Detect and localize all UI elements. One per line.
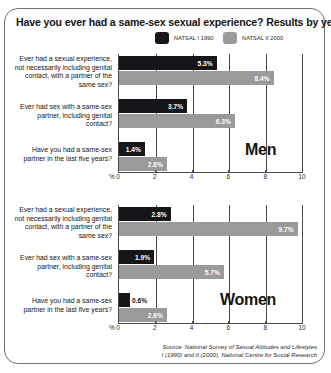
bar-women-2-natsal2: 5.7% [119, 265, 224, 279]
legend-swatch-icon-natsal2 [223, 32, 237, 44]
tick-women-10: 10 [298, 324, 305, 331]
question-label-men-2: Ever had sex with a same-sex partner, in… [12, 103, 112, 129]
question-label-men-1: Ever had a sexual experience, not necess… [12, 55, 112, 89]
bar-men-1-natsal1: 5.3% [119, 56, 217, 70]
tick-men-6: 6 [227, 173, 231, 180]
x-axis-percent-women: % [109, 324, 115, 331]
question-label-women-2: Ever had sex with a same-sex partner, in… [12, 254, 112, 280]
panel-men: Ever had a sexual experience, not necess… [5, 49, 326, 199]
tick-mark-women-4 [192, 321, 193, 324]
source-line-2: I (1990) and II (2000), National Centre … [5, 351, 317, 359]
tick-mark-men-6 [228, 170, 229, 173]
bar-value-women-2-natsal2: 5.7% [205, 269, 224, 276]
legend-label-natsal2: NATSAL II 2000 [242, 35, 283, 41]
bar-value-women-3-natsal2: 2.6% [148, 312, 167, 319]
tick-men-10: 10 [298, 173, 305, 180]
source-line-1: Source: National Survey of Sexual Attitu… [162, 344, 317, 350]
tick-mark-men-10 [302, 170, 303, 173]
bar-value-men-2-natsal1: 3.7% [168, 103, 187, 110]
bar-value-women-1-natsal2: 9.7% [278, 226, 297, 233]
bar-pair-men-1: 5.3% 8.4% [119, 56, 303, 85]
x-axis-ticks-women: 0 2 4 6 8 10 [118, 324, 303, 336]
tick-mark-men-0 [118, 170, 119, 173]
chart-legend: NATSAL I 1990 NATSAL II 2000 [5, 32, 326, 48]
bar-value-men-1-natsal1: 5.3% [197, 60, 216, 67]
bar-value-men-2-natsal2: 6.3% [216, 118, 235, 125]
bar-women-1-natsal2: 9.7% [119, 222, 298, 236]
bar-value-men-3-natsal2: 2.6% [148, 161, 167, 168]
bar-value-men-3-natsal1: 1.4% [126, 146, 145, 153]
x-axis-ticks-men: 0 2 4 6 8 10 [118, 173, 303, 185]
chart-title: Have you ever had a same-sex sexual expe… [16, 16, 316, 28]
bar-value-women-1-natsal1: 2.8% [151, 211, 170, 218]
legend-item-natsal2: NATSAL II 2000 [223, 32, 283, 44]
bar-value-women-3-natsal1: 0.6% [119, 297, 147, 304]
legend-item-natsal1: NATSAL I 1990 [155, 32, 214, 44]
chart-container: Have you ever had a same-sex sexual expe… [4, 8, 325, 364]
source-note: Source: National Survey of Sexual Attitu… [5, 343, 317, 360]
tick-men-0: 0 [116, 173, 120, 180]
tick-women-8: 8 [263, 324, 267, 331]
legend-label-natsal1: NATSAL I 1990 [174, 35, 214, 41]
bar-pair-women-1: 2.8% 9.7% [119, 207, 303, 236]
bar-men-2-natsal2: 6.3% [119, 114, 235, 128]
bar-men-3-natsal1: 1.4% [119, 142, 145, 156]
tick-mark-men-8 [265, 170, 266, 173]
tick-men-2: 2 [153, 173, 157, 180]
tick-mark-women-0 [118, 321, 119, 324]
tick-mark-women-2 [155, 321, 156, 324]
bar-value-women-2-natsal1: 1.9% [135, 254, 154, 261]
bar-value-men-1-natsal2: 8.4% [255, 75, 274, 82]
tick-women-6: 6 [227, 324, 231, 331]
bar-women-1-natsal1: 2.8% [119, 207, 171, 221]
tick-women-4: 4 [190, 324, 194, 331]
bar-men-3-natsal2: 2.6% [119, 157, 167, 171]
tick-mark-men-2 [155, 170, 156, 173]
bar-women-2-natsal1: 1.9% [119, 250, 154, 264]
question-label-men-3: Have you had a same-sex partner in the l… [12, 146, 112, 163]
question-label-women-1: Ever had a sexual experience, not necess… [12, 206, 112, 240]
bar-women-3-natsal1: 0.6% [119, 293, 130, 307]
tick-mark-women-6 [228, 321, 229, 324]
bar-women-3-natsal2: 2.6% [119, 308, 167, 322]
bar-men-1-natsal2: 8.4% [119, 71, 274, 85]
tick-mark-men-4 [192, 170, 193, 173]
bar-pair-men-2: 3.7% 6.3% [119, 99, 303, 128]
bar-men-2-natsal1: 3.7% [119, 99, 187, 113]
x-axis-percent-men: % [109, 173, 115, 180]
tick-men-4: 4 [190, 173, 194, 180]
tick-mark-women-8 [265, 321, 266, 324]
tick-mark-women-10 [302, 321, 303, 324]
panel-name-men: Men [245, 141, 276, 159]
panel-name-women: Women [220, 291, 276, 309]
tick-women-0: 0 [116, 324, 120, 331]
question-label-women-3: Have you had a same-sex partner in the l… [12, 297, 112, 314]
bar-pair-women-2: 1.9% 5.7% [119, 250, 303, 279]
panel-women: Ever had a sexual experience, not necess… [5, 199, 326, 349]
tick-women-2: 2 [153, 324, 157, 331]
legend-swatch-icon-natsal1 [155, 32, 169, 44]
tick-men-8: 8 [263, 173, 267, 180]
